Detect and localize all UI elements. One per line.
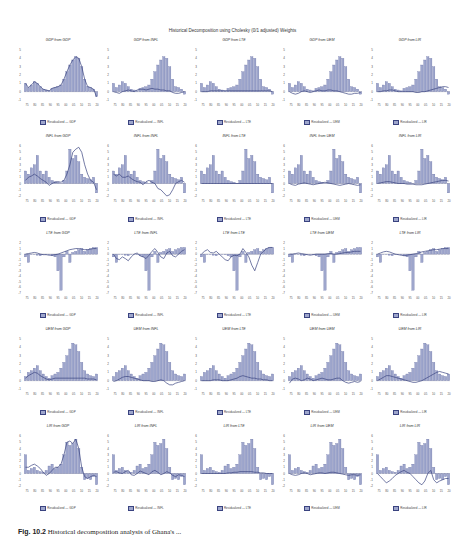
svg-text:2: 2: [107, 362, 109, 366]
svg-text:95: 95: [321, 199, 325, 203]
chart-panel: GDP from INFL-10123457580859095000510152…: [102, 36, 190, 132]
svg-text:5: 5: [195, 151, 197, 155]
svg-text:-2: -2: [106, 194, 109, 198]
chart-panel: UEM from INFL-10123457580859095000510152…: [102, 325, 190, 421]
svg-text:5: 5: [195, 337, 197, 341]
svg-text:85: 85: [393, 489, 397, 493]
svg-text:05: 05: [160, 296, 164, 300]
svg-text:95: 95: [321, 296, 325, 300]
svg-text:-1: -1: [106, 257, 109, 261]
chart-legend: Residualized — INFL: [102, 410, 190, 415]
svg-text:05: 05: [248, 199, 252, 203]
svg-text:-1: -1: [282, 477, 285, 481]
svg-text:4: 4: [195, 157, 197, 161]
svg-text:90: 90: [49, 296, 53, 300]
chart-grid: GDP from GDP-101234575808590950005101520…: [14, 36, 454, 518]
svg-text:6: 6: [371, 434, 373, 438]
panel-title: LTE from UEM: [278, 231, 366, 235]
svg-text:3: 3: [107, 65, 109, 69]
figure-title: Historical Decomposition using Cholesky …: [0, 28, 465, 33]
svg-text:15: 15: [352, 392, 356, 396]
svg-text:95: 95: [145, 392, 149, 396]
svg-text:0: 0: [19, 471, 21, 475]
legend-swatch-icon: [40, 410, 46, 415]
svg-text:15: 15: [176, 392, 180, 396]
svg-text:-1: -1: [370, 477, 373, 481]
svg-text:80: 80: [33, 296, 37, 300]
chart-legend: Residualized — UEM: [278, 120, 366, 125]
svg-text:5: 5: [19, 440, 21, 444]
svg-text:80: 80: [209, 489, 213, 493]
svg-text:1: 1: [107, 465, 109, 469]
bar-line-chart: -2-1012345675808590950005101520: [102, 430, 190, 498]
svg-text:75: 75: [201, 103, 205, 107]
svg-text:1: 1: [283, 176, 285, 180]
panel-title: UEM from GDP: [14, 327, 102, 331]
svg-text:3: 3: [371, 65, 373, 69]
svg-text:-2: -2: [370, 194, 373, 198]
legend-swatch-icon: [304, 506, 310, 511]
svg-text:20: 20: [359, 489, 363, 493]
svg-text:90: 90: [225, 199, 229, 203]
svg-text:10: 10: [256, 103, 260, 107]
svg-text:10: 10: [168, 296, 172, 300]
legend-swatch-icon: [40, 506, 46, 511]
svg-text:75: 75: [113, 489, 117, 493]
svg-text:6: 6: [19, 144, 21, 148]
chart-legend: Residualized — LIR: [366, 410, 454, 415]
svg-text:-2: -2: [370, 263, 373, 267]
svg-text:90: 90: [401, 103, 405, 107]
svg-text:2: 2: [371, 241, 373, 245]
svg-text:0: 0: [371, 379, 373, 383]
svg-text:15: 15: [440, 392, 444, 396]
svg-text:00: 00: [416, 296, 420, 300]
svg-text:2: 2: [19, 169, 21, 173]
svg-text:1: 1: [19, 465, 21, 469]
svg-text:15: 15: [352, 489, 356, 493]
svg-text:2: 2: [283, 362, 285, 366]
svg-text:0: 0: [19, 182, 21, 186]
svg-text:-6: -6: [106, 285, 109, 289]
svg-text:20: 20: [447, 199, 451, 203]
svg-text:-3: -3: [370, 269, 373, 273]
svg-text:10: 10: [168, 392, 172, 396]
legend-swatch-icon: [128, 506, 134, 511]
svg-text:20: 20: [447, 489, 451, 493]
bar-line-chart: -2-1012345675808590950005101520: [190, 140, 278, 208]
svg-text:85: 85: [129, 489, 133, 493]
legend-label: Residualized — GDP: [47, 121, 75, 125]
svg-text:4: 4: [283, 56, 285, 60]
caption-text: Historical decomposition analysis of Gha…: [48, 528, 181, 536]
svg-text:75: 75: [289, 103, 293, 107]
svg-text:2: 2: [283, 73, 285, 77]
chart-legend: Residualized — LIR: [366, 217, 454, 222]
svg-text:85: 85: [129, 199, 133, 203]
svg-text:05: 05: [160, 392, 164, 396]
svg-text:3: 3: [19, 452, 21, 456]
legend-label: Residualized — UEM: [311, 313, 340, 317]
svg-text:85: 85: [217, 103, 221, 107]
svg-text:1: 1: [371, 371, 373, 375]
svg-text:20: 20: [183, 489, 187, 493]
svg-text:1: 1: [195, 176, 197, 180]
svg-text:0: 0: [19, 252, 21, 256]
svg-text:2: 2: [19, 241, 21, 245]
svg-text:05: 05: [72, 296, 76, 300]
chart-legend: Residualized — LIR: [366, 506, 454, 511]
svg-text:5: 5: [283, 337, 285, 341]
svg-text:2: 2: [195, 241, 197, 245]
svg-text:-1: -1: [106, 477, 109, 481]
svg-text:-1: -1: [370, 387, 373, 391]
bar-line-chart: -101234575808590950005101520: [366, 44, 454, 112]
svg-text:95: 95: [57, 296, 61, 300]
svg-text:85: 85: [129, 296, 133, 300]
svg-text:2: 2: [283, 241, 285, 245]
panel-title: GDP from UEM: [278, 38, 366, 42]
svg-text:3: 3: [371, 163, 373, 167]
svg-text:80: 80: [121, 103, 125, 107]
svg-text:75: 75: [113, 296, 117, 300]
svg-text:10: 10: [168, 103, 172, 107]
svg-text:05: 05: [336, 296, 340, 300]
svg-text:75: 75: [289, 199, 293, 203]
svg-text:20: 20: [183, 199, 187, 203]
